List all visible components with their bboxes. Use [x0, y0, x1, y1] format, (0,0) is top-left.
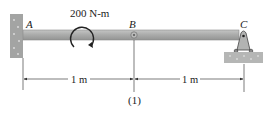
fixed-wall-support — [10, 14, 23, 58]
moment-label: 200 N-m — [70, 7, 110, 19]
dimension-lines — [23, 40, 244, 92]
point-label-a: A — [25, 18, 33, 30]
point-label-c: C — [240, 18, 248, 30]
hinge-b — [131, 32, 137, 38]
dimension-label-ab: 1 m — [71, 74, 87, 85]
dimension-bc: 1 m — [135, 74, 243, 85]
figure-number: (1) — [128, 94, 141, 107]
dimension-ab: 1 m — [24, 74, 133, 85]
point-label-b: B — [129, 18, 136, 30]
dimension-label-bc: 1 m — [182, 74, 198, 85]
beam-diagram: 200 N-m A B C 1 m 1 m (1) — [0, 0, 277, 117]
